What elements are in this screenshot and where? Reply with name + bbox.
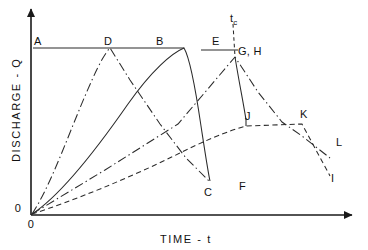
curves-group [32, 24, 330, 214]
x-axis-title: TIME - t [160, 233, 212, 245]
label-D: D [104, 35, 112, 47]
label-J: J [245, 110, 251, 122]
tc-marker-line [233, 24, 235, 57]
label-tc-subscript: c [233, 18, 237, 27]
curve-D-F-dashdot [32, 48, 210, 214]
label-tc: tc [230, 12, 238, 27]
y-origin-tick-label: 0 [15, 202, 21, 214]
curve-E-GH-K-L-dashdot [32, 57, 330, 214]
label-B: B [156, 35, 164, 47]
curve-B-C [32, 48, 210, 214]
curve-dashed-J-K-I [32, 124, 330, 214]
x-origin-tick-label: 0 [28, 218, 34, 230]
label-E: E [212, 35, 220, 47]
hydrograph-figure: DISCHARGE - Q TIME - t 0 0 A [0, 0, 368, 250]
chart-svg: DISCHARGE - Q TIME - t 0 0 A [0, 0, 368, 250]
label-GH: G, H [238, 45, 262, 57]
label-K: K [300, 108, 308, 120]
point-labels-group: A D B E tc G, H C F J K L I [34, 12, 342, 198]
label-F: F [239, 180, 246, 192]
label-C: C [204, 186, 212, 198]
label-I: I [331, 172, 334, 184]
label-A: A [34, 35, 42, 47]
label-L: L [336, 136, 342, 148]
y-axis-title: DISCHARGE - Q [10, 57, 22, 162]
